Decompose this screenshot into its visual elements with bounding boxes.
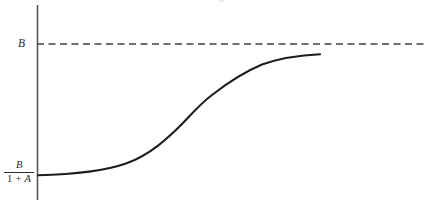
logistic-curve (38, 54, 320, 175)
intercept-fraction-label: B 1 + A (4, 160, 34, 184)
fraction-denominator: 1 + A (4, 173, 34, 185)
figure-canvas (0, 0, 432, 208)
upper-asymptote-label: B (18, 38, 25, 50)
denominator-one: 1 (7, 173, 13, 184)
denominator-a: A (24, 173, 31, 184)
denominator-plus-sign: + (16, 173, 22, 184)
logistic-growth-figure: B B 1 + A (0, 0, 432, 208)
top-edge-artifact (219, 0, 224, 2)
fraction-numerator: B (4, 160, 34, 172)
